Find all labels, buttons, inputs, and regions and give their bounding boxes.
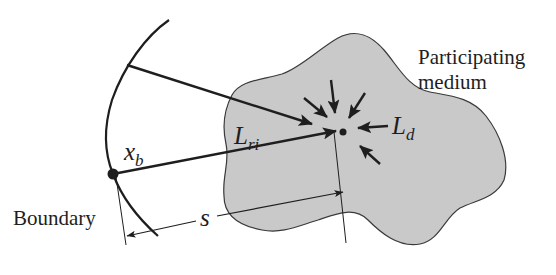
distance-label: s	[200, 204, 210, 231]
medium-label-line1: Participating	[418, 45, 526, 69]
radiative-transfer-diagram: Participating medium Boundary xb Lri Ld …	[0, 0, 556, 275]
distance-dimension-left	[127, 221, 196, 236]
boundary-point-label: xb	[123, 138, 144, 170]
boundary-curve	[106, 20, 169, 236]
boundary-tangent-line	[115, 170, 126, 245]
boundary-label: Boundary	[13, 206, 96, 230]
boundary-point	[108, 169, 119, 180]
evaluation-point	[340, 129, 347, 136]
medium-label-line2: medium	[418, 70, 487, 94]
